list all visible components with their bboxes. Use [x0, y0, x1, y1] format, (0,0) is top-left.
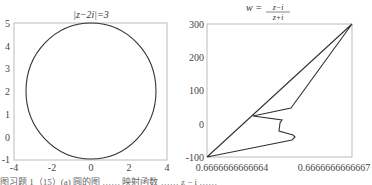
figure-canvas: |z−2i|=3 5 4 3 2 1 0 -1 -4 -2 0 2 4 w = … — [0, 0, 372, 185]
y-tick: 0 — [199, 119, 204, 130]
left-plot: |z−2i|=3 5 4 3 2 1 0 -1 -4 -2 0 2 4 — [2, 9, 170, 173]
right-title-lhs: w = — [246, 2, 262, 13]
x-tick: 2 — [127, 162, 132, 173]
y-tick: 5 — [5, 18, 10, 29]
y-tick: 1 — [5, 109, 10, 120]
figure-caption: 图习题 1（15）(a) 圆的图 …… 映射函数 …… z − i …… — [0, 175, 372, 185]
x-tick: 0.6666666666667 — [298, 162, 371, 173]
mapped-curve — [207, 24, 352, 157]
circle-curve — [26, 23, 156, 159]
y-tick: 0 — [5, 132, 10, 143]
y-tick: 200 — [189, 52, 204, 63]
x-tick: 0 — [89, 162, 94, 173]
y-tick: 300 — [189, 19, 204, 30]
left-plot-frame — [14, 23, 167, 160]
x-tick: 0.6666666666664 — [196, 162, 269, 173]
x-tick: 4 — [165, 162, 170, 173]
y-tick: 100 — [189, 85, 204, 96]
left-plot-title: |z−2i|=3 — [73, 9, 109, 20]
y-tick: -1 — [2, 154, 10, 165]
x-tick: -2 — [48, 162, 56, 173]
right-title-numerator: z−i — [272, 3, 284, 12]
y-tick: 3 — [5, 63, 10, 74]
y-tick: 2 — [5, 86, 10, 97]
x-tick: -4 — [10, 162, 18, 173]
y-tick: 4 — [5, 41, 10, 52]
right-title-denominator: z+i — [272, 13, 284, 22]
right-plot: w = z−i z+i 300 200 100 0 -100 0.6666666… — [186, 2, 371, 173]
